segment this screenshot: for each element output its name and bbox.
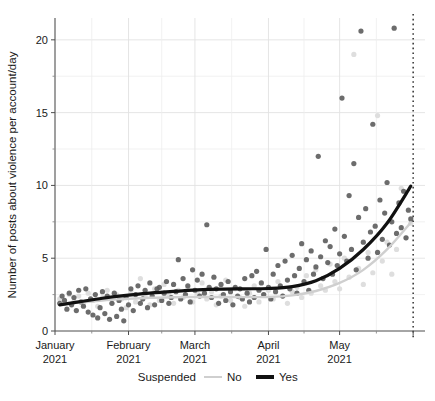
x-tick-label-month: January bbox=[35, 339, 75, 351]
x-tick-label-year: 2021 bbox=[116, 353, 140, 365]
y-axis-tick-labels: 05101520 bbox=[36, 34, 48, 337]
x-axis-ticks bbox=[55, 331, 413, 335]
x-axis-tick-labels: January2021February2021March2021April202… bbox=[35, 339, 351, 365]
chart-legend: SuspendedNoYes bbox=[138, 371, 298, 383]
legend-label-yes: Yes bbox=[279, 371, 298, 383]
y-tick-label: 20 bbox=[36, 34, 48, 46]
legend-label-no: No bbox=[227, 371, 242, 383]
legend-title: Suspended bbox=[138, 371, 196, 383]
x-tick-label-year: 2021 bbox=[256, 353, 280, 365]
y-tick-label: 0 bbox=[42, 325, 48, 337]
x-tick-label-year: 2021 bbox=[43, 353, 67, 365]
chart-figure: 05101520 January2021February2021March202… bbox=[0, 0, 435, 401]
x-tick-label-month: May bbox=[329, 339, 350, 351]
y-axis-ticks bbox=[51, 40, 55, 331]
y-tick-label: 5 bbox=[42, 252, 48, 264]
x-tick-label-month: April bbox=[257, 339, 279, 351]
y-tick-label: 15 bbox=[36, 107, 48, 119]
y-axis-title: Number of posts about violence per accou… bbox=[6, 51, 18, 298]
y-tick-label: 10 bbox=[36, 179, 48, 191]
x-tick-label-year: 2021 bbox=[327, 353, 351, 365]
x-tick-label-year: 2021 bbox=[183, 353, 207, 365]
x-tick-label-month: March bbox=[180, 339, 211, 351]
scatter-plot: 05101520 January2021February2021March202… bbox=[0, 0, 435, 401]
x-tick-label-month: February bbox=[107, 339, 152, 351]
plot-background bbox=[55, 18, 425, 331]
